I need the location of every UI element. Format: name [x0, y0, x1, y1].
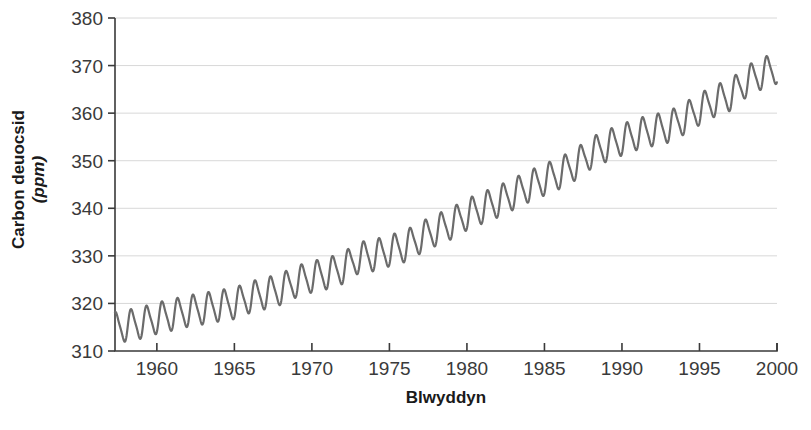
x-tick-label: 1995	[678, 358, 720, 379]
gridlines	[115, 18, 777, 303]
x-tick-label: 1985	[523, 358, 565, 379]
x-tick-label: 1990	[601, 358, 643, 379]
x-axis-title: Blwyddyn	[115, 388, 777, 408]
y-axis-ticks: 310320330340350360370380	[71, 8, 115, 362]
y-tick-label: 380	[71, 8, 103, 29]
y-tick-label: 370	[71, 56, 103, 77]
x-tick-label: 1980	[446, 358, 488, 379]
y-tick-label: 340	[71, 198, 103, 219]
x-axis-ticks: 196019651970197519801985199019952000	[136, 343, 798, 379]
x-tick-label: 1965	[213, 358, 255, 379]
plot-area: 310320330340350360370380 196019651970197…	[0, 0, 811, 430]
y-tick-label: 310	[71, 341, 103, 362]
y-tick-label: 330	[71, 246, 103, 267]
x-tick-label: 1970	[291, 358, 333, 379]
x-tick-label: 2000	[756, 358, 798, 379]
y-tick-label: 350	[71, 151, 103, 172]
x-tick-label: 1960	[136, 358, 178, 379]
co2-chart: Carbon deuocsid (ppm) 310320330340350360…	[0, 0, 811, 430]
y-tick-label: 320	[71, 293, 103, 314]
x-tick-label: 1975	[368, 358, 410, 379]
axis-lines	[115, 18, 777, 351]
y-tick-label: 360	[71, 103, 103, 124]
co2-series-line	[115, 56, 777, 342]
